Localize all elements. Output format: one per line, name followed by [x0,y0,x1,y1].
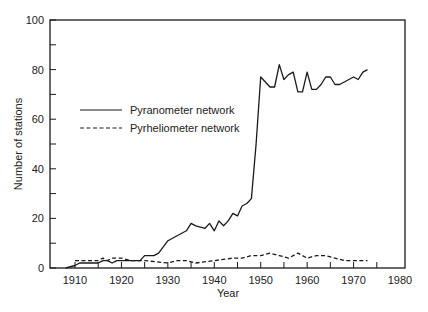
x-axis-label: Year [217,287,240,299]
pyrheliometer-series-line [75,253,368,263]
x-tick-label: 1950 [248,274,272,286]
y-tick-label: 40 [32,163,44,175]
y-axis-label: Number of stations [12,97,24,190]
x-tick-label: 1970 [341,274,365,286]
legend-label-pyranometer: Pyranometer network [130,104,235,116]
y-tick-label: 100 [26,14,44,26]
plot-frame [50,20,405,268]
x-tick-label: 1980 [388,274,412,286]
x-tick-label: 1920 [109,274,133,286]
x-axis-ticks: 19101920193019401950196019701980 [63,262,412,286]
y-tick-label: 0 [38,262,44,274]
series-lines [66,65,368,268]
y-tick-label: 20 [32,212,44,224]
x-tick-label: 1930 [156,274,180,286]
x-tick-label: 1910 [63,274,87,286]
y-tick-label: 60 [32,113,44,125]
x-tick-label: 1960 [295,274,319,286]
pyranometer-series-line [66,65,368,268]
y-axis-ticks: 020406080100 [26,14,56,274]
x-tick-label: 1940 [202,274,226,286]
line-chart: 020406080100 191019201930194019501960197… [0,0,428,312]
y-tick-label: 80 [32,64,44,76]
legend-label-pyrheliometer: Pyrheliometer network [130,122,240,134]
legend: Pyranometer network Pyrheliometer networ… [80,104,240,134]
